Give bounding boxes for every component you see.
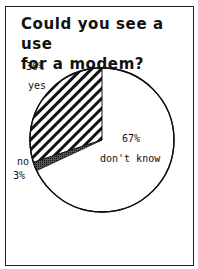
pie-chart [0, 0, 198, 269]
label-yes-name: yes [28, 80, 46, 92]
label-no-percent: 3% [13, 170, 25, 182]
label-dont-know-name: don't know [100, 153, 160, 165]
label-no-name: no [17, 156, 29, 168]
label-yes-percent: 30% [26, 61, 44, 73]
pie-slices [30, 68, 174, 212]
label-dont-know-percent: 67% [122, 133, 140, 145]
